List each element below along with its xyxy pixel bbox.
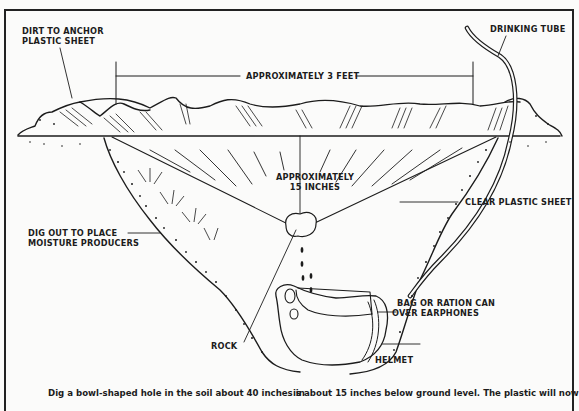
rock-shape [286, 212, 317, 236]
label-clear-plastic-sheet: CLEAR PLASTIC SHEET [465, 197, 572, 207]
label-moisture-producers: DIG OUT TO PLACE MOISTURE PRODUCERS [28, 228, 139, 248]
leader-dirt [60, 48, 72, 98]
drinking-tube [410, 28, 515, 296]
moisture-producers [138, 168, 218, 240]
leader-tube [498, 36, 506, 56]
label-helmet: HELMET [375, 355, 413, 365]
label-dirt-anchor: DIRT TO ANCHOR PLASTIC SHEET [22, 26, 104, 46]
label-width-dimension: APPROXIMATELY 3 FEET [246, 71, 359, 81]
caption-left-column: Dig a bowl-shaped hole in the soil about… [48, 388, 305, 398]
label-drinking-tube: DRINKING TUBE [490, 24, 565, 34]
label-bag-ration-can: BAG OR RATION CAN OVER EARPHONES [392, 298, 495, 318]
label-depth-dimension: APPROXIMATELY 15 INCHES [272, 172, 358, 192]
label-rock: ROCK [211, 341, 237, 351]
pit-left-wall [104, 138, 300, 372]
left-dirt-mound [18, 102, 150, 135]
ridge-line [80, 97, 520, 108]
ridge-hatching [60, 104, 508, 132]
caption-right-column: is about 15 inches below ground level. T… [293, 388, 579, 398]
water-drips [301, 247, 313, 293]
